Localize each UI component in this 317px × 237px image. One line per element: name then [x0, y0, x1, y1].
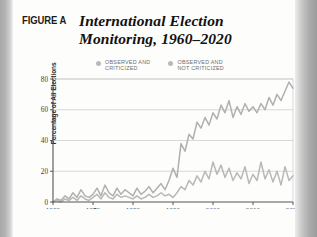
chart-legend: OBSERVED AND CRITICIZED OBSERVED AND NOT…	[96, 59, 224, 72]
legend-item-observed-and-not-criticized: OBSERVED AND NOT CRITICIZED	[168, 59, 224, 72]
legend-swatch-icon	[96, 61, 101, 66]
page-gutter-left	[0, 0, 13, 237]
legend-label: OBSERVED AND NOT CRITICIZED	[177, 59, 224, 72]
svg-text:1990: 1990	[166, 208, 181, 209]
figure-page: FIGURE A International Election Monitori…	[0, 0, 317, 237]
svg-text:80: 80	[41, 76, 49, 84]
legend-label: OBSERVED AND CRITICIZED	[105, 59, 150, 72]
svg-text:0: 0	[44, 199, 48, 207]
svg-text:60: 60	[41, 106, 49, 114]
figure-title: International Election Monitoring, 1960–…	[79, 12, 289, 48]
svg-text:40: 40	[41, 137, 49, 145]
svg-text:2010: 2010	[246, 208, 261, 209]
legend-swatch-icon	[168, 61, 173, 66]
svg-text:20: 20	[41, 168, 49, 176]
chart-area: Percentage of All Elections 020406080196…	[20, 74, 295, 209]
page-gutter-right	[295, 0, 317, 237]
svg-text:1980: 1980	[126, 208, 141, 209]
svg-text:1970: 1970	[86, 208, 101, 209]
svg-text:1960: 1960	[46, 208, 61, 209]
line-chart-plot: 0204060801960197019801990200020102020	[20, 74, 295, 209]
svg-text:2020: 2020	[286, 208, 295, 209]
figure-label: FIGURE A	[22, 14, 66, 26]
legend-item-observed-and-criticized: OBSERVED AND CRITICIZED	[96, 59, 150, 72]
svg-text:2000: 2000	[206, 208, 221, 209]
